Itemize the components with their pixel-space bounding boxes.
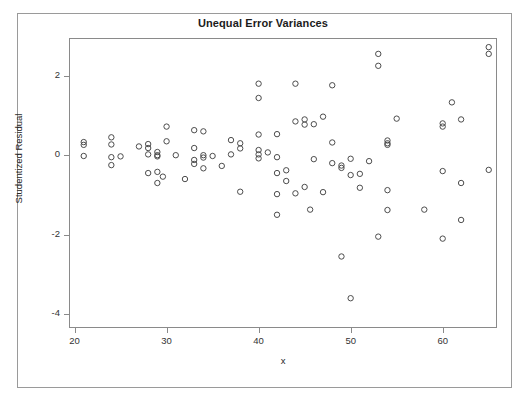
x-tick-mark xyxy=(259,328,260,333)
data-point xyxy=(118,154,123,159)
data-point xyxy=(348,156,353,161)
data-point xyxy=(238,141,243,146)
data-point xyxy=(109,162,114,167)
x-tick-label: 20 xyxy=(60,335,90,346)
data-point xyxy=(182,176,187,181)
data-point xyxy=(486,51,491,56)
data-point xyxy=(311,156,316,161)
data-point xyxy=(155,180,160,185)
chart-screenshot: Unequal Error Variances 20-2-4 203040506… xyxy=(0,0,526,401)
chart-title: Unequal Error Variances xyxy=(0,17,526,29)
y-tick-mark xyxy=(64,314,69,315)
data-point xyxy=(228,152,233,157)
data-point xyxy=(330,160,335,165)
x-tick-label: 50 xyxy=(336,335,366,346)
data-point xyxy=(201,166,206,171)
data-point xyxy=(274,154,279,159)
data-point xyxy=(302,184,307,189)
data-point xyxy=(160,174,165,179)
data-point xyxy=(449,100,454,105)
data-point xyxy=(376,234,381,239)
y-axis-title: Studentized Residual xyxy=(13,79,24,239)
data-point xyxy=(486,44,491,49)
data-point xyxy=(191,161,196,166)
data-point xyxy=(486,167,491,172)
data-point xyxy=(109,135,114,140)
data-point xyxy=(191,145,196,150)
data-point xyxy=(330,83,335,88)
x-tick-mark xyxy=(443,328,444,333)
data-point xyxy=(458,117,463,122)
y-tick-label: 0 xyxy=(32,148,60,159)
data-point xyxy=(145,145,150,150)
data-point xyxy=(81,153,86,158)
x-axis-title: x xyxy=(69,355,497,366)
data-point xyxy=(274,191,279,196)
y-tick-label: -4 xyxy=(32,307,60,318)
data-point xyxy=(330,140,335,145)
data-point xyxy=(210,153,215,158)
data-point xyxy=(357,171,362,176)
data-point xyxy=(136,144,141,149)
scatter-plot-canvas xyxy=(69,38,497,328)
data-point xyxy=(164,139,169,144)
data-point xyxy=(348,172,353,177)
data-point xyxy=(274,131,279,136)
data-point xyxy=(256,81,261,86)
data-point xyxy=(284,178,289,183)
data-point xyxy=(145,170,150,175)
y-tick-label: -2 xyxy=(32,228,60,239)
y-tick-mark xyxy=(64,76,69,77)
data-point xyxy=(458,217,463,222)
data-point xyxy=(155,169,160,174)
data-point xyxy=(366,158,371,163)
data-point xyxy=(320,114,325,119)
x-tick-mark xyxy=(75,328,76,333)
data-point xyxy=(274,170,279,175)
data-point xyxy=(238,146,243,151)
data-point xyxy=(256,132,261,137)
data-point xyxy=(173,152,178,157)
data-point xyxy=(109,154,114,159)
data-point xyxy=(307,207,312,212)
data-point xyxy=(219,163,224,168)
data-point xyxy=(256,156,261,161)
data-point xyxy=(311,122,316,127)
data-point xyxy=(440,168,445,173)
data-point xyxy=(376,51,381,56)
data-point xyxy=(293,119,298,124)
y-tick-mark xyxy=(64,235,69,236)
x-tick-mark xyxy=(167,328,168,333)
data-point xyxy=(339,254,344,259)
data-point xyxy=(265,150,270,155)
data-point xyxy=(293,191,298,196)
data-point xyxy=(357,185,362,190)
data-point xyxy=(256,95,261,100)
data-point xyxy=(440,236,445,241)
data-point xyxy=(385,207,390,212)
x-tick-label: 30 xyxy=(152,335,182,346)
data-point xyxy=(394,116,399,121)
data-point xyxy=(228,137,233,142)
data-point xyxy=(348,296,353,301)
data-point xyxy=(302,117,307,122)
data-point xyxy=(385,187,390,192)
data-point-markers xyxy=(81,44,491,300)
data-point xyxy=(320,189,325,194)
data-point xyxy=(284,168,289,173)
data-point xyxy=(191,127,196,132)
data-point xyxy=(458,180,463,185)
x-tick-label: 40 xyxy=(244,335,274,346)
x-tick-mark xyxy=(351,328,352,333)
y-tick-mark xyxy=(64,155,69,156)
y-tick-label: 2 xyxy=(32,69,60,80)
data-point xyxy=(238,189,243,194)
x-tick-label: 60 xyxy=(428,335,458,346)
data-point xyxy=(109,142,114,147)
data-point xyxy=(422,207,427,212)
data-point xyxy=(201,129,206,134)
data-point xyxy=(145,152,150,157)
data-point xyxy=(293,81,298,86)
data-point xyxy=(302,122,307,127)
data-point xyxy=(164,124,169,129)
